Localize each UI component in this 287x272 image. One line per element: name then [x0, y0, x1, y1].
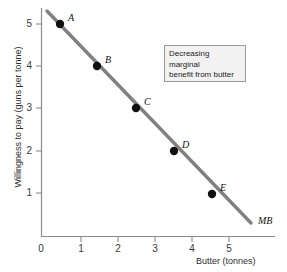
point-label-b: B: [105, 54, 111, 65]
data-point-e: [208, 190, 216, 198]
data-point-b: [93, 62, 101, 70]
data-point-c: [132, 104, 140, 112]
x-tick-label-5: 5: [222, 243, 236, 254]
point-label-c: C: [144, 96, 151, 107]
annotation-line-1: Decreasing: [169, 49, 245, 60]
x-tick-label-3: 3: [148, 243, 162, 254]
plot-area: [0, 0, 287, 272]
y-axis-title: Willingness to pay (guns per tonne): [13, 33, 23, 201]
point-label-a: A: [68, 12, 74, 23]
x-tick-label-2: 2: [111, 243, 125, 254]
annotation-line-3: benefit from butter: [169, 70, 245, 81]
x-axis-title: Butter (tonnes): [196, 256, 256, 266]
decreasing-marginal-benefit-note: Decreasing marginal benefit from butter: [164, 45, 246, 82]
point-label-d: D: [182, 139, 189, 150]
point-label-e: E: [220, 182, 226, 193]
x-tick-label-4: 4: [185, 243, 199, 254]
y-tick-label-5: 5: [18, 18, 32, 29]
x-axis-ticks: [81, 237, 229, 243]
annotation-line-2: marginal: [169, 60, 245, 71]
marginal-benefit-chart: 5 4 3 2 1 0 1 2 3 4 5 Willingness to pay…: [0, 0, 287, 272]
y-axis-ticks: [36, 24, 42, 193]
data-point-d: [170, 147, 178, 155]
x-tick-label-1: 1: [74, 243, 88, 254]
data-point-a: [56, 20, 64, 28]
mb-curve-label: MB: [258, 215, 272, 226]
x-tick-label-0: 0: [34, 243, 48, 254]
